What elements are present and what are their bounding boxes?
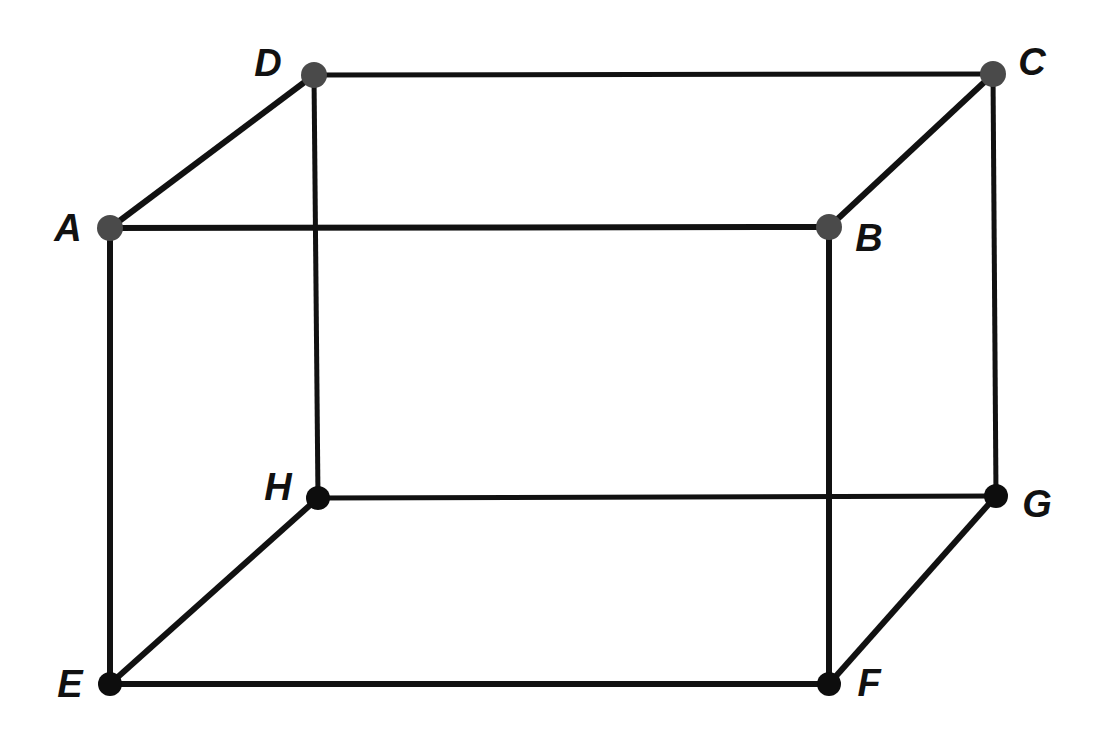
cube-vertices	[97, 61, 1008, 696]
cube-edges	[110, 74, 996, 684]
cube-vertex-g[interactable]	[984, 484, 1008, 508]
cube-vertex-d[interactable]	[301, 62, 327, 88]
cube-vertex-a[interactable]	[97, 215, 123, 241]
cube-edge-gh	[318, 496, 996, 498]
cube-vertex-c[interactable]	[980, 61, 1006, 87]
vertex-label-g: G	[1022, 485, 1052, 523]
cube-edge-bc	[829, 74, 993, 227]
vertex-label-e: E	[57, 665, 82, 703]
vertex-label-h: H	[264, 468, 291, 506]
vertex-label-a: A	[54, 209, 81, 247]
cube-edge-hd	[314, 75, 318, 498]
cube-edge-ab	[110, 227, 829, 228]
vertex-label-f: F	[857, 664, 880, 702]
cube-diagram: ABCDEFGH	[0, 0, 1104, 734]
cube-edge-fg	[829, 496, 996, 684]
vertex-label-b: B	[855, 219, 882, 257]
cube-vertex-b[interactable]	[816, 214, 842, 240]
vertex-label-d: D	[254, 44, 281, 82]
cube-drawing-canvas	[0, 0, 1104, 734]
cube-vertex-e[interactable]	[98, 672, 122, 696]
cube-edge-eh	[110, 498, 318, 684]
cube-edge-cg	[993, 74, 996, 496]
cube-vertex-f[interactable]	[817, 672, 841, 696]
cube-edge-dc	[314, 74, 993, 75]
vertex-label-c: C	[1018, 43, 1045, 81]
cube-vertex-h[interactable]	[306, 486, 330, 510]
cube-edge-ad	[110, 75, 314, 228]
